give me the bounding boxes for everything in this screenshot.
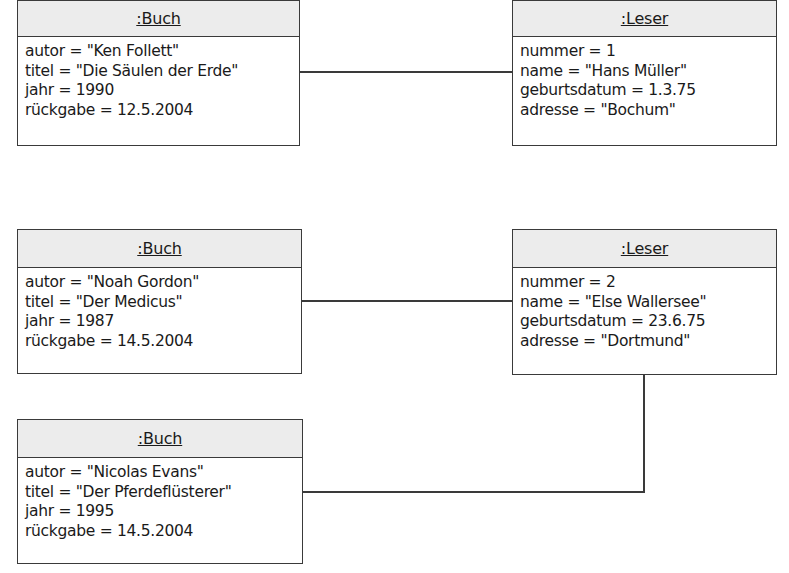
object-attributes: autor = "Ken Follett" titel = "Die Säule… xyxy=(18,37,299,120)
attribute-geburtsdatum: geburtsdatum = 1.3.75 xyxy=(520,81,776,101)
object-name: :Leser xyxy=(621,239,668,258)
object-leser-1: :Leser nummer = 1 name = "Hans Müller" g… xyxy=(512,0,777,146)
object-header: :Buch xyxy=(18,1,299,37)
attribute-rueckgabe: rückgabe = 14.5.2004 xyxy=(25,332,301,352)
link-buch2-leser2 xyxy=(301,300,513,302)
object-header: :Leser xyxy=(513,1,776,37)
object-name: :Buch xyxy=(137,239,181,258)
link-buch3-leser2-vertical xyxy=(643,374,645,493)
object-name: :Buch xyxy=(136,9,180,28)
attribute-autor: autor = "Noah Gordon" xyxy=(25,273,301,293)
object-header: :Buch xyxy=(18,420,302,458)
attribute-jahr: jahr = 1987 xyxy=(25,312,301,332)
link-buch1-leser1 xyxy=(299,71,513,73)
object-buch-2: :Buch autor = "Noah Gordon" titel = "Der… xyxy=(17,229,302,374)
object-header: :Buch xyxy=(18,230,301,268)
attribute-adresse: adresse = "Dortmund" xyxy=(520,332,776,352)
attribute-nummer: nummer = 2 xyxy=(520,273,776,293)
attribute-geburtsdatum: geburtsdatum = 23.6.75 xyxy=(520,312,776,332)
object-attributes: nummer = 1 name = "Hans Müller" geburtsd… xyxy=(513,37,776,120)
object-header: :Leser xyxy=(513,230,776,268)
attribute-name: name = "Else Wallersee" xyxy=(520,293,776,313)
object-leser-2: :Leser nummer = 2 name = "Else Wallersee… xyxy=(512,229,777,375)
link-buch3-leser2-horizontal xyxy=(302,491,645,493)
attribute-titel: titel = "Der Pferdeflüsterer" xyxy=(25,483,302,503)
attribute-autor: autor = "Nicolas Evans" xyxy=(25,463,302,483)
attribute-titel: titel = "Die Säulen der Erde" xyxy=(25,62,299,82)
attribute-rueckgabe: rückgabe = 12.5.2004 xyxy=(25,101,299,121)
object-buch-3: :Buch autor = "Nicolas Evans" titel = "D… xyxy=(17,419,303,564)
attribute-nummer: nummer = 1 xyxy=(520,42,776,62)
attribute-adresse: adresse = "Bochum" xyxy=(520,101,776,121)
object-buch-1: :Buch autor = "Ken Follett" titel = "Die… xyxy=(17,0,300,146)
object-name: :Leser xyxy=(621,9,668,28)
object-attributes: autor = "Nicolas Evans" titel = "Der Pfe… xyxy=(18,458,302,541)
object-attributes: nummer = 2 name = "Else Wallersee" gebur… xyxy=(513,268,776,351)
attribute-rueckgabe: rückgabe = 14.5.2004 xyxy=(25,522,302,542)
attribute-autor: autor = "Ken Follett" xyxy=(25,42,299,62)
attribute-titel: titel = "Der Medicus" xyxy=(25,293,301,313)
attribute-jahr: jahr = 1990 xyxy=(25,81,299,101)
attribute-jahr: jahr = 1995 xyxy=(25,502,302,522)
object-name: :Buch xyxy=(138,429,182,448)
object-attributes: autor = "Noah Gordon" titel = "Der Medic… xyxy=(18,268,301,351)
attribute-name: name = "Hans Müller" xyxy=(520,62,776,82)
